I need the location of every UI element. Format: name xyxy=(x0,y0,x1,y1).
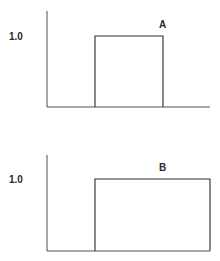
panel-b-step-line xyxy=(95,179,210,251)
panel-a: 1.0 A xyxy=(9,11,210,107)
panel-b-label: B xyxy=(159,162,166,173)
panel-a-label: A xyxy=(159,19,166,30)
panel-b-y-tick-label: 1.0 xyxy=(9,174,23,185)
panel-b: 1.0 B xyxy=(9,155,210,251)
figure: 1.0 A 1.0 B xyxy=(0,0,220,261)
panel-a-y-tick-label: 1.0 xyxy=(9,31,23,42)
panel-a-pulse-line xyxy=(95,36,163,107)
chart-svg: 1.0 A 1.0 B xyxy=(0,0,220,261)
